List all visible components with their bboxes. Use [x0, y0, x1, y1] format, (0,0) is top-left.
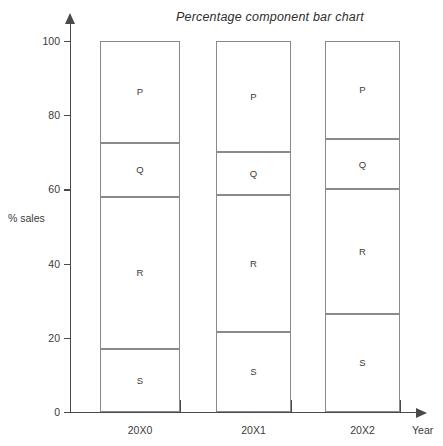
- bar-segment-r[interactable]: R: [325, 189, 400, 313]
- x-axis-arrowhead: [416, 408, 427, 418]
- y-axis-tick: [64, 115, 71, 116]
- x-axis-category-label: 20X0: [105, 424, 175, 436]
- bar-segment-label: P: [250, 92, 256, 102]
- bar-segment-label: R: [359, 247, 366, 257]
- bar-segment-label: S: [137, 376, 143, 386]
- bar-segment-label: S: [250, 367, 256, 377]
- bar-segment-s[interactable]: S: [325, 314, 400, 412]
- bar-20X0[interactable]: PQRS: [100, 41, 180, 412]
- bar-segment-label: P: [137, 87, 143, 97]
- chart-title: Percentage component bar chart: [120, 10, 420, 24]
- bar-segment-p[interactable]: P: [216, 41, 291, 152]
- bar-segment-p[interactable]: P: [325, 41, 400, 139]
- y-axis-arrowhead: [65, 13, 75, 24]
- bar-segment-label: S: [359, 358, 365, 368]
- bar-segment-label: R: [250, 259, 257, 269]
- y-axis-tick-label: 20: [20, 332, 60, 344]
- x-axis-category-label: 20X1: [219, 424, 289, 436]
- x-axis-tick: [400, 400, 401, 413]
- bar-segment-r[interactable]: R: [216, 195, 291, 332]
- y-axis-tick-label: 60: [20, 183, 60, 195]
- y-axis-tick: [64, 189, 71, 190]
- x-axis-tick: [291, 400, 292, 413]
- bar-segment-s[interactable]: S: [100, 349, 180, 412]
- percentage-component-bar-chart: Percentage component bar chart % sales Y…: [0, 0, 443, 446]
- bar-20X1[interactable]: PQRS: [216, 41, 291, 412]
- bar-segment-r[interactable]: R: [100, 197, 180, 349]
- x-axis-tick: [180, 400, 181, 413]
- bar-segment-label: Q: [250, 169, 257, 179]
- y-axis-tick-label: 80: [20, 109, 60, 121]
- y-axis-tick: [64, 264, 71, 265]
- bar-segment-label: R: [137, 268, 144, 278]
- y-axis-tick-label: 40: [20, 258, 60, 270]
- bar-segment-q[interactable]: Q: [325, 139, 400, 189]
- x-axis-line: [70, 412, 418, 413]
- x-axis-category-label: 20X2: [328, 424, 398, 436]
- bar-segment-label: P: [359, 85, 365, 95]
- y-axis-tick-label: 0: [20, 406, 60, 418]
- y-axis-title: % sales: [8, 212, 45, 224]
- y-axis-line: [70, 22, 71, 413]
- y-axis-tick-label: 100: [20, 35, 60, 47]
- bar-segment-p[interactable]: P: [100, 41, 180, 143]
- bar-segment-label: Q: [136, 165, 143, 175]
- bar-segment-label: Q: [359, 160, 366, 170]
- x-axis-title: Year: [412, 424, 433, 436]
- bar-segment-q[interactable]: Q: [100, 143, 180, 197]
- y-axis-tick: [64, 412, 71, 413]
- bar-20X2[interactable]: PQRS: [325, 41, 400, 412]
- y-axis-tick: [64, 338, 71, 339]
- bar-segment-s[interactable]: S: [216, 332, 291, 412]
- y-axis-tick: [64, 41, 71, 42]
- bar-segment-q[interactable]: Q: [216, 152, 291, 195]
